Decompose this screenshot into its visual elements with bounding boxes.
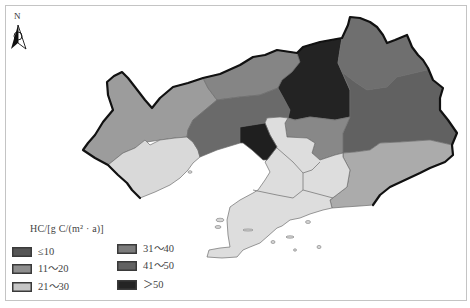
legend-label: ＞50 — [143, 280, 164, 290]
legend-label: 11～20 — [38, 264, 69, 274]
legend-title: HC/[g C/(m² · a)] — [30, 223, 104, 234]
island — [271, 241, 275, 244]
island — [215, 226, 221, 229]
legend-item: 41～50 — [117, 261, 174, 271]
island — [294, 249, 297, 251]
legend-swatch — [12, 247, 32, 257]
island — [317, 245, 321, 248]
legend-swatch — [117, 244, 137, 254]
island — [286, 236, 294, 238]
north-label: N — [14, 11, 21, 21]
legend-label: 41～50 — [143, 261, 174, 271]
legend-item: ≤10 — [12, 247, 54, 257]
legend-label: 21～30 — [38, 282, 69, 292]
legend-swatch — [12, 282, 32, 292]
legend-item: 11～20 — [12, 264, 69, 274]
legend-swatch — [117, 280, 137, 290]
legend-swatch — [117, 261, 137, 271]
island — [243, 229, 253, 231]
legend-swatch — [12, 264, 32, 274]
legend-item: ＞50 — [117, 280, 164, 290]
legend-label: ≤10 — [38, 247, 54, 257]
legend-item: 21～30 — [12, 282, 69, 292]
choropleth-map — [0, 0, 470, 308]
island — [188, 171, 192, 174]
legend-label: 31～40 — [143, 244, 174, 254]
legend-item: 31～40 — [117, 244, 174, 254]
island — [306, 221, 311, 224]
island — [216, 218, 224, 222]
